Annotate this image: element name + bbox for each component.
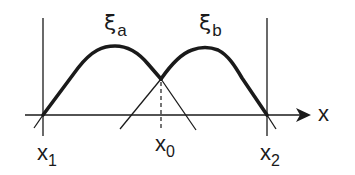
curve-xi-b: [161, 48, 267, 115]
label-x0-subscript: 0: [166, 143, 175, 160]
curve-b-extension-lower-left: [120, 79, 161, 129]
label-xi-a-subscript: a: [117, 21, 127, 40]
label-x2: x2: [260, 140, 280, 169]
curve-b-extension-lower-right: [267, 115, 276, 129]
label-x0-base: x: [155, 131, 166, 156]
label-x1: x1: [37, 140, 57, 169]
x-axis-label: x: [318, 101, 329, 126]
curve-a-extension-lower-right: [161, 79, 196, 130]
label-xi-b-symbol: ξ: [199, 10, 211, 35]
label-xi-a: ξa: [104, 10, 127, 40]
label-x1-base: x: [37, 140, 48, 165]
label-xi-b: ξb: [199, 10, 222, 40]
label-x1-subscript: 1: [48, 152, 57, 169]
curve-xi-a: [43, 46, 161, 115]
label-xi-a-symbol: ξ: [104, 10, 116, 35]
label-x0: x0: [155, 131, 175, 160]
label-xi-b-subscript: b: [212, 21, 221, 40]
label-x2-base: x: [260, 140, 271, 165]
diagram-canvas: ξa ξb x x1 x0 x2: [0, 0, 355, 175]
label-x2-subscript: 2: [271, 152, 280, 169]
curve-a-extension-lower-left: [34, 115, 43, 128]
